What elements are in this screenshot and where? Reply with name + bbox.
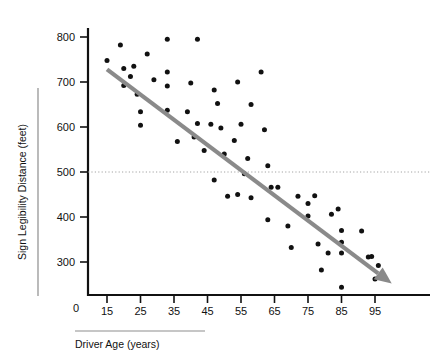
trend-line-group (107, 69, 392, 283)
x-tick-label-15: 15 (101, 305, 113, 317)
data-point (215, 101, 220, 106)
y-tick-label-500: 500 (57, 166, 75, 178)
data-point (259, 70, 264, 75)
axis-lines (88, 28, 430, 295)
y-tick-label-700: 700 (57, 76, 75, 88)
data-point (128, 74, 133, 79)
data-point (275, 185, 280, 190)
data-point (195, 121, 200, 126)
data-point (151, 77, 156, 82)
data-point (336, 206, 341, 211)
data-point (212, 178, 217, 183)
data-point (249, 102, 254, 107)
trend-line (107, 69, 378, 273)
data-point (195, 37, 200, 42)
data-point (202, 148, 207, 153)
x-tick-label-35: 35 (168, 305, 180, 317)
data-point (105, 58, 110, 63)
x-tick-label-95: 95 (369, 305, 381, 317)
x-tick-label-25: 25 (134, 305, 146, 317)
data-point (249, 195, 254, 200)
x-tick-label-45: 45 (201, 305, 213, 317)
scatter-plot-figure: Sign Legibility Distance (feet) 800 700 … (0, 0, 437, 361)
x-axis-title: Driver Age (years) (75, 338, 160, 350)
data-point (295, 194, 300, 199)
data-point (285, 224, 290, 229)
data-point (245, 156, 250, 161)
data-point (316, 242, 321, 247)
y-axis-ticks (80, 37, 88, 262)
y-axis-tick-labels: 800 700 600 500 400 300 0 (57, 31, 79, 314)
data-point (165, 37, 170, 42)
data-point (138, 109, 143, 114)
origin-label: 0 (73, 302, 79, 314)
data-point (326, 251, 331, 256)
data-point (121, 66, 126, 71)
data-point (188, 80, 193, 85)
data-point (118, 43, 123, 48)
data-point (138, 123, 143, 128)
y-tick-label-400: 400 (57, 211, 75, 223)
data-point (235, 192, 240, 197)
chart-canvas: Sign Legibility Distance (feet) 800 700 … (0, 0, 437, 361)
data-point (165, 84, 170, 89)
data-point (265, 217, 270, 222)
data-point (232, 138, 237, 143)
data-point (339, 251, 344, 256)
data-point (339, 228, 344, 233)
data-point (208, 122, 213, 127)
x-tick-label-55: 55 (235, 305, 247, 317)
data-point (235, 80, 240, 85)
x-tick-label-75: 75 (302, 305, 314, 317)
y-tick-label-800: 800 (57, 31, 75, 43)
data-point (212, 88, 217, 93)
data-point (218, 125, 223, 130)
data-point (239, 122, 244, 127)
data-point (131, 64, 136, 69)
x-tick-label-65: 65 (268, 305, 280, 317)
data-point (175, 139, 180, 144)
data-point (329, 212, 334, 217)
data-point (165, 70, 170, 75)
data-point (289, 245, 294, 250)
x-axis-tick-labels: 152535455565758595 (101, 305, 381, 317)
y-tick-label-300: 300 (57, 256, 75, 268)
x-tick-label-85: 85 (335, 305, 347, 317)
data-point (312, 193, 317, 198)
data-point (369, 254, 374, 259)
data-point (185, 109, 190, 114)
y-axis-title: Sign Legibility Distance (feet) (16, 124, 28, 260)
data-point (339, 285, 344, 290)
data-point (265, 163, 270, 168)
y-tick-label-600: 600 (57, 121, 75, 133)
data-point (319, 268, 324, 273)
data-point (306, 201, 311, 206)
plot-axes (88, 28, 430, 295)
data-point (145, 52, 150, 57)
scatter-point-group (105, 37, 381, 290)
x-axis-ticks (107, 295, 375, 303)
data-point (359, 228, 364, 233)
data-point (262, 127, 267, 132)
data-point (225, 194, 230, 199)
data-point (376, 263, 381, 268)
